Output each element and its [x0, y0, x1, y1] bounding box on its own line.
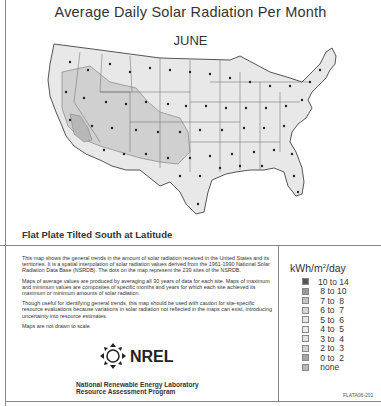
- divider-bottom: [5, 401, 381, 402]
- legend-swatch: [302, 278, 309, 285]
- divider-horizontal: [0, 245, 381, 246]
- legend-item: 7 to 8: [302, 296, 349, 306]
- legend-label: 5 to 6: [318, 315, 344, 325]
- legend-label: 10 to 14: [318, 277, 349, 287]
- us-solar-map: [40, 42, 360, 228]
- divider-vertical: [278, 245, 279, 401]
- legend-item: 6 to 7: [302, 306, 349, 316]
- legend-swatch: [302, 307, 309, 314]
- sun-icon: [100, 343, 126, 369]
- legend-swatch: [302, 326, 309, 333]
- legend-item: 3 to 4: [302, 334, 349, 344]
- legend-item: 2 to 3: [302, 344, 349, 354]
- legend-swatch: [302, 316, 309, 323]
- legend-label: 3 to 4: [318, 334, 344, 344]
- nrel-logo-text: NREL: [130, 348, 174, 365]
- legend-swatch: [302, 345, 309, 352]
- description-text: This map shows the general trends in the…: [22, 255, 274, 333]
- organization-name: National Renewable Energy Laboratory Res…: [76, 381, 199, 395]
- legend-label: 7 to 8: [318, 296, 344, 306]
- description-paragraph: Though useful for identifying general tr…: [22, 300, 274, 319]
- unit-base: kWh/m: [290, 262, 323, 274]
- legend: 10 to 14 8 to 10 7 to 8 6 to 7 5 to 6 4 …: [302, 277, 349, 372]
- organization-line2: Resource Assessment Program: [76, 388, 199, 395]
- legend-swatch: [302, 288, 309, 295]
- description-paragraph: Maps of average values are produced by a…: [22, 278, 274, 297]
- legend-item: 8 to 10: [302, 287, 349, 297]
- legend-label: 2 to 3: [318, 343, 344, 353]
- frame-border-left: [5, 0, 6, 406]
- legend-swatch: [302, 354, 309, 361]
- legend-swatch: [302, 364, 309, 371]
- legend-label: 4 to 5: [318, 324, 344, 334]
- map-subtitle: Flat Plate Tilted South at Latitude: [22, 229, 172, 240]
- organization-line1: National Renewable Energy Laboratory: [76, 381, 199, 388]
- legend-unit: kWh/m2/day: [290, 262, 346, 274]
- legend-label: 0 to 2: [318, 353, 344, 363]
- legend-swatch: [302, 335, 309, 342]
- description-paragraph: This map shows the general trends in the…: [22, 255, 274, 274]
- legend-item: 5 to 6: [302, 315, 349, 325]
- legend-label: 6 to 7: [318, 305, 344, 315]
- legend-item: 0 to 2: [302, 353, 349, 363]
- map-code: FLATA06-201: [343, 392, 373, 398]
- legend-label: none: [318, 362, 339, 372]
- unit-suffix: /day: [326, 262, 346, 274]
- legend-item: 4 to 5: [302, 325, 349, 335]
- legend-item: none: [302, 363, 349, 373]
- legend-item: 10 to 14: [302, 277, 349, 287]
- legend-swatch: [302, 297, 309, 304]
- map-title: Average Daily Solar Radiation Per Month: [0, 4, 381, 20]
- legend-label: 8 to 10: [318, 286, 346, 296]
- description-paragraph: Maps are not drawn to scale.: [22, 323, 274, 329]
- nrel-logo: NREL: [100, 343, 190, 369]
